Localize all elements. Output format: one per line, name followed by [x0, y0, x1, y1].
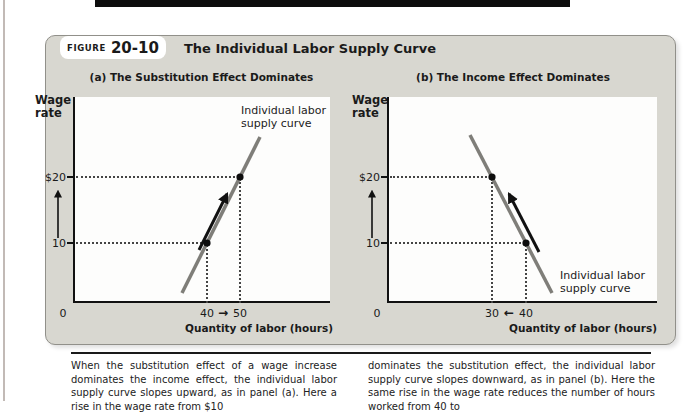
figure-number-pill: FIGURE 20-10: [60, 36, 166, 59]
panel-b-title: (b) The Income Effect Dominates: [378, 71, 648, 83]
panel-b-dotted-wage20: [390, 176, 491, 178]
panel-a-curve-label: Individual labor supply curve: [241, 104, 326, 130]
panel-a-xtick-50: 50: [228, 307, 252, 320]
panel-a-y-axis-label: Wage rate: [35, 94, 71, 120]
scan-artifact-page-edge: [3, 0, 5, 401]
panel-a-ytick-10: 10: [28, 237, 66, 250]
caption-rule: [71, 352, 651, 354]
panel-a-dotted-wage10: [76, 242, 206, 244]
panel-b-ytick-20: $20: [342, 171, 380, 184]
panel-b-tickmark-20: [381, 176, 387, 178]
panel-b-dotted-q30: [491, 179, 493, 303]
scan-artifact-top-bar: [95, 0, 570, 7]
figure-title: The Individual Labor Supply Curve: [184, 41, 436, 56]
caption-right-column: dominates the substitution effect, the i…: [368, 359, 655, 413]
panel-b-ytick-10: 10: [342, 237, 380, 250]
caption-left-column: When the substitution effect of a wage i…: [71, 359, 337, 413]
figure-number: 20-10: [111, 39, 159, 57]
panel-b-xtick-40: 40: [514, 307, 538, 320]
figure-label: FIGURE: [67, 43, 106, 53]
panel-a-title: (a) The Substitution Effect Dominates: [73, 71, 330, 83]
panel-a-ytick-20: $20: [28, 171, 66, 184]
panel-b-y-axis-label: Wage rate: [352, 94, 388, 120]
panel-a-dotted-q50: [239, 179, 241, 303]
panel-b-dotted-q40: [525, 245, 527, 303]
panel-b-curve-label: Individual labor supply curve: [560, 269, 645, 295]
panel-a-dotted-q40: [206, 245, 208, 303]
panel-b-origin-label: 0: [365, 307, 389, 320]
panel-a-x-axis-label: Quantity of labor (hours): [150, 322, 333, 334]
panel-a-tickmark-10: [67, 242, 73, 244]
panel-b-x-axis-label: Quantity of labor (hours): [474, 322, 657, 334]
panel-a-tickmark-20: [67, 176, 73, 178]
panel-a-dotted-wage20: [76, 176, 239, 178]
panel-b-dotted-wage10: [390, 242, 525, 244]
panel-b-tickmark-10: [381, 242, 387, 244]
panel-a-origin-label: 0: [51, 307, 75, 320]
